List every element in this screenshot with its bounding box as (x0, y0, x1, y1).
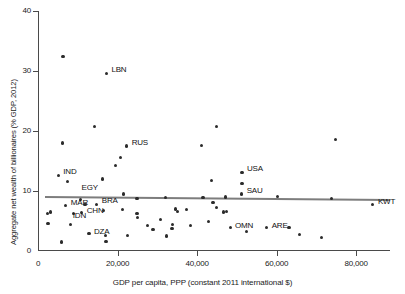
data-point (49, 210, 52, 213)
data-point (207, 220, 210, 223)
data-point (61, 55, 64, 58)
point-label-KWT: KWT (378, 198, 395, 206)
data-point (66, 180, 69, 183)
plot-area (38, 11, 390, 251)
data-point (135, 212, 138, 215)
x-tick-mark-40000 (197, 251, 198, 256)
point-label-IND: IND (63, 168, 76, 176)
point-label-OMN: OMN (235, 222, 253, 230)
x-tick-label-80000: 80,000 (336, 260, 376, 268)
point-label-ARE: ARE (272, 222, 288, 230)
data-point (61, 141, 64, 144)
y-tick-mark-20 (33, 131, 38, 132)
data-point-LBN (105, 72, 108, 75)
y-tick-mark-10 (33, 191, 38, 192)
data-point (46, 222, 49, 225)
data-point (287, 226, 290, 229)
data-point (151, 228, 154, 231)
x-tick-label-60000: 60,000 (257, 260, 297, 268)
y-tick-label-0: 0 (15, 247, 31, 255)
point-label-RUS: RUS (132, 139, 148, 147)
data-point (135, 197, 138, 200)
data-point-OMN (229, 226, 232, 229)
point-label-LBN: LBN (111, 66, 126, 74)
data-point (122, 192, 125, 195)
x-tick-mark-20000 (118, 251, 119, 256)
x-axis-title: GDP per capita, PPP (constant 2011 inter… (0, 278, 405, 287)
y-tick-label-30: 30 (15, 67, 31, 75)
data-point (104, 240, 107, 243)
point-label-BRA: BRA (102, 197, 118, 205)
data-point (215, 125, 218, 128)
data-point (215, 206, 218, 209)
point-label-EGY: EGY (82, 184, 98, 192)
data-point (165, 234, 168, 237)
data-point (224, 195, 227, 198)
y-tick-mark-30 (33, 71, 38, 72)
point-label-IDN: IDN (73, 212, 86, 220)
data-point (102, 209, 105, 212)
x-tick-label-20000: 20,000 (98, 260, 138, 268)
point-label-CHN: CHN (87, 207, 104, 215)
data-point-SAU (240, 192, 243, 195)
y-axis-title: Aggregate net wealth of billionaires (% … (10, 79, 18, 245)
x-tick-label-40000: 40,000 (177, 260, 217, 268)
x-tick-mark-80000 (356, 251, 357, 256)
data-point-IND (57, 174, 60, 177)
point-label-SAU: SAU (247, 187, 263, 195)
data-point (201, 196, 204, 199)
data-point (240, 182, 243, 185)
y-tick-label-40: 40 (15, 7, 31, 15)
data-point (334, 138, 337, 141)
data-point (46, 212, 49, 215)
data-point (211, 201, 214, 204)
data-point-USA (240, 171, 243, 174)
data-point (276, 195, 279, 198)
data-point (330, 197, 333, 200)
data-point (93, 125, 96, 128)
data-point-DZA (87, 232, 90, 235)
data-point-RUS (125, 144, 128, 147)
data-point (245, 230, 248, 233)
point-label-USA: USA (247, 165, 263, 173)
point-label-DZA: DZA (94, 228, 109, 236)
data-point (164, 196, 167, 199)
y-tick-mark-40 (33, 11, 38, 12)
x-tick-label-0: 0 (18, 260, 58, 268)
scatter-chart-figure: 010203040 020,00040,00060,00080,000 Aggr… (0, 0, 405, 294)
x-tick-mark-60000 (277, 251, 278, 256)
